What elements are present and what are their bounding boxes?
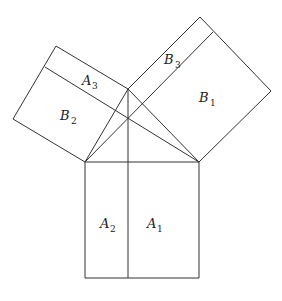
- label-B1: B 1: [198, 90, 216, 108]
- svg-text:3: 3: [92, 81, 98, 91]
- label-A2: A 2: [99, 216, 116, 234]
- right-square-divider: [85, 32, 213, 162]
- pythagorean-diagram: A 1 A 2 A 3 B 1 B 2 B 3: [0, 0, 282, 301]
- svg-text:B: B: [59, 108, 70, 123]
- svg-text:1: 1: [157, 224, 163, 234]
- svg-text:2: 2: [71, 116, 77, 126]
- label-A3: A 3: [81, 73, 98, 91]
- left-leg-square: [13, 46, 128, 162]
- svg-text:B: B: [198, 90, 209, 105]
- svg-text:1: 1: [210, 98, 216, 108]
- svg-text:A: A: [146, 216, 156, 231]
- label-B2: B 2: [59, 108, 77, 126]
- svg-text:B: B: [163, 52, 174, 67]
- svg-text:A: A: [81, 73, 91, 88]
- svg-text:A: A: [99, 216, 109, 231]
- label-A1: A 1: [146, 216, 163, 234]
- svg-text:2: 2: [110, 224, 116, 234]
- svg-text:3: 3: [175, 60, 181, 70]
- label-B3: B 3: [163, 52, 181, 70]
